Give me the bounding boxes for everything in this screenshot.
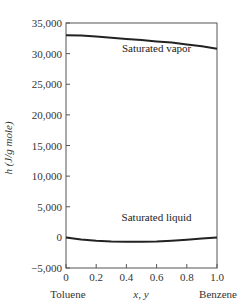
x-tick-label: 0.8 [180, 271, 194, 283]
enthalpy-composition-chart: −5,00005,00010,00015,00020,00025,00030,0… [0, 0, 247, 306]
y-tick-label: 10,000 [32, 170, 63, 182]
x-tick-label: 0 [63, 271, 69, 283]
x-axis-label: x, y [132, 288, 148, 300]
x-tick-label: 0.2 [89, 271, 103, 283]
y-axis-label: h (J/g mole) [2, 121, 15, 174]
y-tick-label: 20,000 [32, 109, 63, 121]
y-tick-label: 25,000 [32, 78, 63, 90]
y-tick-label: 0 [57, 231, 63, 243]
plot-area: −5,00005,00010,00015,00020,00025,00030,0… [31, 17, 224, 283]
x-tick-label: 1.0 [210, 271, 224, 283]
y-tick-label: −5,000 [31, 262, 62, 274]
y-tick-label: 15,000 [32, 140, 63, 152]
y-tick-label: 30,000 [32, 48, 63, 60]
plot-frame [66, 23, 217, 268]
toluene-label: Toluene [50, 288, 85, 300]
series-line-saturated-liquid [66, 237, 217, 241]
annotation-saturated-liquid: Saturated liquid [122, 211, 192, 223]
x-tick-label: 0.4 [120, 271, 134, 283]
y-tick-label: 35,000 [32, 17, 63, 29]
y-tick-label: 5,000 [37, 201, 62, 213]
benzene-label: Benzene [199, 288, 237, 300]
x-tick-label: 0.6 [150, 271, 164, 283]
annotation-saturated-vapor: Saturated vapor [122, 42, 192, 54]
